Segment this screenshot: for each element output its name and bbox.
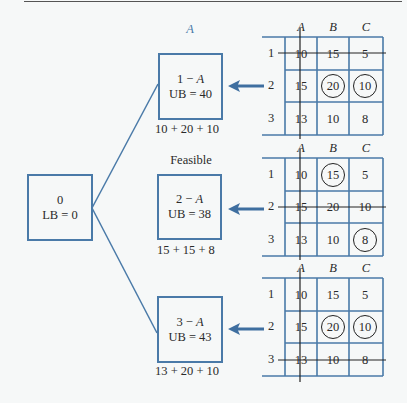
branch-1-sum: 10 + 20 + 10 [155,122,219,137]
cell-3a: 13 [285,353,317,367]
root-node-bound: LB = 0 [42,208,78,223]
cell-1c: 5 [349,47,381,61]
row-label-2: 2 [268,199,274,214]
row-label-3: 3 [268,232,274,247]
branch-1-top-label: A [183,22,197,37]
cell-2c: 10 [349,200,381,214]
col-header-a: A [291,141,311,156]
branch-node-3-bound: UB = 43 [168,330,211,345]
col-header-a: A [291,261,311,276]
col-header-a: A [291,20,311,35]
cell-1a: 10 [285,168,317,182]
cell-2b-circled: 20 [317,74,349,98]
cell-3a: 13 [285,233,317,247]
branch-node-2-bound: UB = 38 [168,207,211,222]
col-header-c: C [356,141,376,156]
cell-1a: 10 [285,288,317,302]
branch-node-1-title: 1 − A [177,72,204,87]
row-label-1: 1 [268,287,274,302]
cell-2c-circled: 10 [349,74,381,98]
cost-matrix-1: A B C 1 2 3 10 15 5 15 20 10 13 10 8 [262,20,392,140]
connector-to-node-1 [92,84,158,208]
branch-node-3-title: 3 − A [176,315,203,330]
branch-2-sum: 15 + 15 + 8 [157,243,215,258]
branch-node-1-bound: UB = 40 [169,87,212,102]
branch-2-feasible-label: Feasible [168,153,214,168]
col-header-b: B [323,141,343,156]
cell-1b: 15 [317,288,349,302]
cell-1c: 5 [349,288,381,302]
branch-node-1: 1 − A UB = 40 [158,53,223,120]
cost-matrix-2: A B C 1 2 3 10 15 5 15 20 10 13 10 8 [262,141,392,261]
cell-2c-circled: 10 [349,315,381,339]
arrow-left-icon [228,323,264,335]
row-label-3: 3 [268,352,274,367]
row-label-2: 2 [268,319,274,334]
branch-node-2-title: 2 − A [176,192,203,207]
cell-1c: 5 [349,168,381,182]
cell-2b: 20 [317,200,349,214]
row-label-1: 1 [268,46,274,61]
row-label-3: 3 [268,111,274,126]
cell-2a: 15 [285,79,317,93]
root-node-title: 0 [57,193,63,208]
row-label-1: 1 [268,167,274,182]
cell-1a: 10 [285,47,317,61]
cell-2a: 15 [285,320,317,334]
branch-3-sum: 13 + 20 + 10 [155,364,219,379]
cell-3b: 10 [317,112,349,126]
cell-3b: 10 [317,233,349,247]
cell-3c: 8 [349,112,381,126]
cell-3c: 8 [349,353,381,367]
branch-node-3: 3 − A UB = 43 [157,296,223,363]
cost-matrix-3: A B C 1 2 3 10 15 5 15 20 10 13 10 8 [262,261,392,381]
arrow-left-icon [228,80,264,92]
cell-1b: 15 [317,47,349,61]
col-header-b: B [323,261,343,276]
arrow-left-icon [228,203,264,215]
row-label-2: 2 [268,78,274,93]
branch-node-2: 2 − A UB = 38 [157,174,222,240]
root-node: 0 LB = 0 [27,174,93,241]
col-header-c: C [356,20,376,35]
connector-to-node-3 [92,208,157,333]
cell-3b: 10 [317,353,349,367]
cell-3a: 13 [285,112,317,126]
col-header-b: B [323,20,343,35]
col-header-c: C [356,261,376,276]
cell-3c-circled: 8 [349,228,381,252]
cell-1b-circled: 15 [317,163,349,187]
cell-2b-circled: 20 [317,315,349,339]
cell-2a: 15 [285,200,317,214]
